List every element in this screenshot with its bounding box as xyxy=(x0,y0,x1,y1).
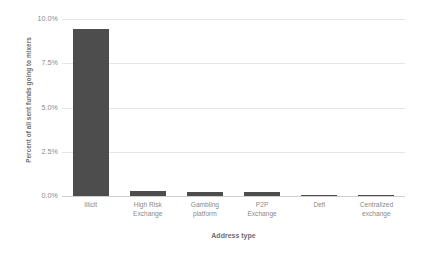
y-axis-tick-label: 0.0% xyxy=(14,192,58,200)
bar[interactable] xyxy=(187,192,223,196)
bar[interactable] xyxy=(301,195,337,196)
bar[interactable] xyxy=(73,29,109,196)
x-axis-tick-labels: IllicitHigh Risk ExchangeGambling platfo… xyxy=(62,200,405,228)
y-axis-tick-label: 2.5% xyxy=(14,148,58,156)
y-axis-tick-labels: 0.0%2.5%5.0%7.5%10.0% xyxy=(10,0,58,257)
bar[interactable] xyxy=(358,195,394,196)
y-axis-tick-label: 10.0% xyxy=(14,15,58,23)
bar[interactable] xyxy=(130,191,166,196)
y-axis-tick-label: 7.5% xyxy=(14,59,58,67)
y-axis-tick-label: 5.0% xyxy=(14,104,58,112)
x-axis-line xyxy=(62,196,405,197)
bars-layer xyxy=(62,19,405,196)
bar-chart: Percent of all sent funds going to mixer… xyxy=(0,0,427,257)
x-axis-tick-label: Centralized exchange xyxy=(342,200,410,218)
x-axis-title: Address type xyxy=(62,231,405,241)
bar[interactable] xyxy=(244,192,280,196)
